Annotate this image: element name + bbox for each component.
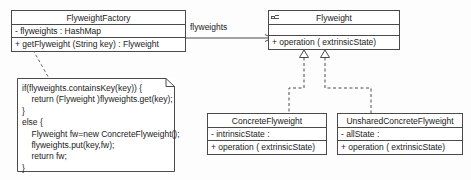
class-operation-row: + operation ( extrinsicState) — [338, 141, 462, 154]
class-name-unshared-concrete-flyweight: UnsharedConcreteFlyweight — [341, 115, 459, 127]
class-header-flyweight: Flyweight — [269, 11, 399, 25]
uml-class-diagram: FlyweightFactory - flyweights : HashMap … — [0, 0, 471, 180]
class-operation-row: + operation ( extrinsicState) — [269, 36, 399, 49]
note-code-text: if(flyweights.containsKey(key)) { return… — [17, 78, 175, 172]
class-box-flyweight-factory[interactable]: FlyweightFactory - flyweights : HashMap … — [11, 10, 186, 52]
class-attribute-row: - intrinsicState : — [208, 128, 326, 141]
realization-unshared-concrete-flyweight — [321, 50, 372, 113]
class-header-unshared-concrete-flyweight: UnsharedConcreteFlyweight — [338, 114, 462, 128]
class-box-flyweight[interactable]: Flyweight + operation ( extrinsicState) — [268, 10, 400, 50]
class-attribute-row: - flyweights : HashMap — [12, 25, 185, 38]
note-box-get-flyweight-code[interactable]: if(flyweights.containsKey(key)) { return… — [17, 78, 175, 172]
class-box-concrete-flyweight[interactable]: ConcreteFlyweight - intrinsicState : + o… — [207, 113, 327, 155]
class-box-unshared-concrete-flyweight[interactable]: UnsharedConcreteFlyweight - allState : +… — [337, 113, 463, 155]
class-operation-row: + operation ( extrinsicState) — [208, 141, 326, 154]
class-header-concrete-flyweight: ConcreteFlyweight — [208, 114, 326, 128]
realization-concrete-flyweight — [289, 50, 309, 113]
class-header-flyweight-factory: FlyweightFactory — [12, 11, 185, 25]
interface-icon — [271, 14, 279, 21]
class-name-flyweight: Flyweight — [272, 12, 396, 24]
class-name-flyweight-factory: FlyweightFactory — [15, 12, 182, 24]
class-name-concrete-flyweight: ConcreteFlyweight — [211, 115, 323, 127]
association-flyweights — [178, 35, 272, 42]
class-attribute-row: - allState : — [338, 128, 462, 141]
association-label-flyweights: flyweights — [190, 22, 227, 32]
class-operation-row: + getFlyweight (String key) : Flyweight — [12, 38, 185, 51]
class-attribute-row — [269, 25, 399, 36]
